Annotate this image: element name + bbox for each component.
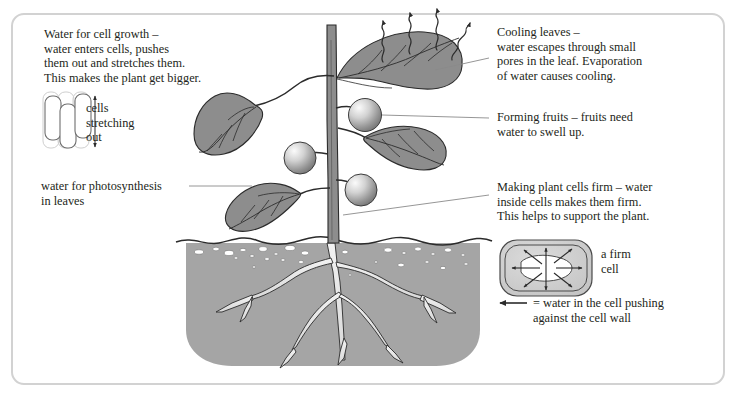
figure-canvas: Water for cell growth – water enters cel… xyxy=(0,0,739,407)
plant-stem xyxy=(327,25,339,243)
label-cells-stretching-out: cells stretching out xyxy=(86,101,135,145)
soil xyxy=(176,237,492,368)
leaf-right-lower xyxy=(338,126,446,170)
fruit-1 xyxy=(349,99,382,132)
leader-fruits xyxy=(382,115,489,118)
leaf-top-right xyxy=(337,32,462,89)
annotation-water-for-cell-growth: Water for cell growth – water enters cel… xyxy=(44,27,201,85)
annotation-making-plant-cells-firm: Making plant cells firm – water inside c… xyxy=(497,180,652,224)
fruit-3 xyxy=(345,174,377,206)
annotation-forming-fruits: Forming fruits – fruits need water to sw… xyxy=(497,110,633,139)
legend-text: = water in the cell pushing against the … xyxy=(533,296,664,325)
firm-cell-diagram xyxy=(500,240,592,296)
fruit-2 xyxy=(284,142,316,174)
label-a-firm-cell: a firm cell xyxy=(601,247,631,276)
leaf-left-upper xyxy=(194,75,334,155)
annotation-cooling-leaves: Cooling leaves – water escapes through s… xyxy=(497,25,642,83)
leaf-left-lower xyxy=(225,183,330,231)
annotation-water-for-photosynthesis: water for photosynthesis in leaves xyxy=(41,179,162,208)
